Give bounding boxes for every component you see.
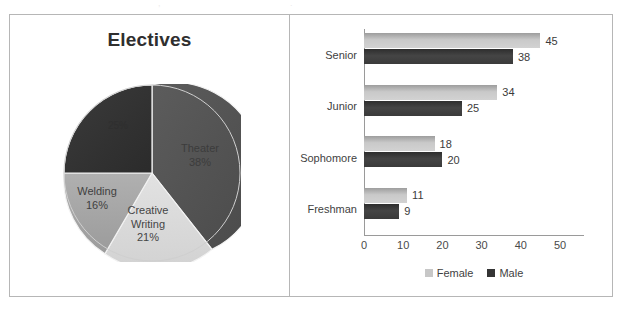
legend-label: Female <box>437 267 474 279</box>
bar-male-junior[interactable] <box>364 101 462 116</box>
bar-category-label: Junior <box>327 100 357 112</box>
bar-female-freshman[interactable] <box>364 188 407 203</box>
bar-row: 45 <box>364 33 560 48</box>
bar-value-label: 9 <box>404 205 410 217</box>
clipped-text-above-left: , <box>158 0 161 8</box>
bar-male-senior[interactable] <box>364 49 513 64</box>
bar-chart-legend: FemaleMale <box>364 267 584 279</box>
bar-row: 18 <box>364 136 560 151</box>
bar-row: 20 <box>364 152 560 167</box>
clipped-text-above-right: . <box>290 0 293 8</box>
bar-value-label: 11 <box>412 189 423 201</box>
bar-value-label: 18 <box>440 138 452 150</box>
bar-female-sophomore[interactable] <box>364 136 435 151</box>
bar-value-label: 38 <box>518 51 530 63</box>
bar-male-freshman[interactable] <box>364 204 399 219</box>
x-tick-0: 0 <box>361 239 367 251</box>
bar-value-label: 20 <box>447 154 459 166</box>
bar-row: 34 <box>364 85 560 100</box>
pie-chart-panel: Electives <box>10 15 290 296</box>
bar-group-sophomore: Sophomore1820 <box>364 136 560 180</box>
pie-chart-title: Electives <box>10 29 289 51</box>
legend-item-female[interactable]: Female <box>425 267 474 279</box>
bar-value-label: 34 <box>502 86 514 98</box>
x-tick-10: 10 <box>397 239 409 251</box>
bar-female-junior[interactable] <box>364 85 497 100</box>
bar-chart-panel: Senior4538Junior3425Sophomore1820Freshma… <box>290 15 612 296</box>
bar-row: 9 <box>364 204 560 219</box>
x-tick-50: 50 <box>554 239 566 251</box>
legend-label: Male <box>499 267 523 279</box>
bar-group-freshman: Freshman119 <box>364 188 560 232</box>
bar-category-label: Freshman <box>307 203 357 215</box>
bar-category-label: Senior <box>325 49 357 61</box>
bar-chart-plot-area: Senior4538Junior3425Sophomore1820Freshma… <box>364 29 560 235</box>
bar-group-senior: Senior4538 <box>364 33 560 77</box>
bar-group-junior: Junior3425 <box>364 85 560 129</box>
pie-svg <box>63 84 241 262</box>
bar-chart-x-tick-labels: 01020304050 <box>364 239 584 255</box>
x-tick-20: 20 <box>436 239 448 251</box>
legend-swatch-icon <box>487 269 495 277</box>
bar-value-label: 25 <box>467 102 479 114</box>
chart-table-frame: Electives <box>9 14 613 297</box>
bar-row: 11 <box>364 188 560 203</box>
x-tick-30: 30 <box>475 239 487 251</box>
bar-row: 25 <box>364 101 560 116</box>
pie-chart-graphic: Theater 38% Creative Writing 21% Welding… <box>63 84 241 262</box>
bar-male-sophomore[interactable] <box>364 152 442 167</box>
bar-chart-x-axis <box>364 235 584 236</box>
legend-swatch-icon <box>425 269 433 277</box>
pie-slice-fourth <box>64 85 152 173</box>
bar-row: 38 <box>364 49 560 64</box>
legend-item-male[interactable]: Male <box>487 267 523 279</box>
x-tick-40: 40 <box>515 239 527 251</box>
bar-category-label: Sophomore <box>300 152 357 164</box>
bar-female-senior[interactable] <box>364 33 540 48</box>
bar-value-label: 45 <box>545 35 557 47</box>
